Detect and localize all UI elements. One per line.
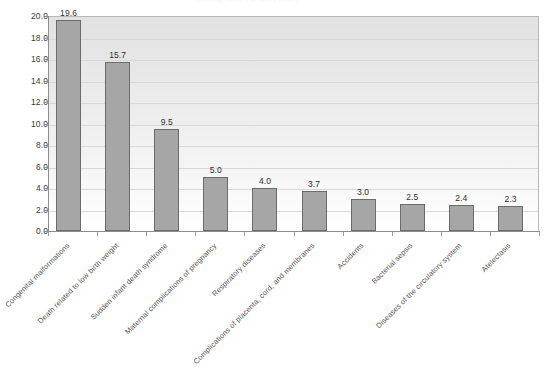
bar-value-label: 4.0 <box>245 176 285 186</box>
category-axis-labels: Congenital malformationsDeath related to… <box>0 231 547 382</box>
bar-group: 2.4 <box>449 16 474 231</box>
bar-group: 15.7 <box>105 16 130 231</box>
y-tick-label: 2.0 <box>4 205 48 215</box>
category-label: Diseases of the circulatory system <box>374 241 463 330</box>
bars-layer: 19.615.79.55.04.03.73.02.52.42.3 <box>48 17 538 231</box>
y-tick-label: 8.0 <box>4 140 48 150</box>
bar <box>449 205 474 231</box>
y-tick-mark <box>44 145 48 146</box>
bar-chart-figure: Leading causes of infant death 19.615.79… <box>0 0 547 382</box>
bar-value-label: 2.4 <box>441 193 481 203</box>
bar-group: 3.7 <box>302 16 327 231</box>
bar-value-label: 19.6 <box>49 8 89 18</box>
bar-group: 2.3 <box>498 16 523 231</box>
category-label: Atelectasis <box>480 241 513 274</box>
y-tick-mark <box>44 16 48 17</box>
y-tick-mark <box>44 188 48 189</box>
bar <box>400 204 425 231</box>
category-label: Maternal complications of pregnancy <box>123 241 218 336</box>
bar-value-label: 2.3 <box>490 194 530 204</box>
bar <box>56 20 81 231</box>
y-tick-mark <box>44 167 48 168</box>
y-tick-label: 18.0 <box>4 33 48 43</box>
category-label: Respiratory diseases <box>210 241 267 298</box>
y-tick-label: 4.0 <box>4 183 48 193</box>
bar-value-label: 3.0 <box>343 187 383 197</box>
bar-group: 9.5 <box>154 16 179 231</box>
chart-title-ghost: Leading causes of infant death <box>196 0 406 4</box>
y-tick-label: 14.0 <box>4 76 48 86</box>
y-tick-mark <box>44 124 48 125</box>
plot-area: 19.615.79.55.04.03.73.02.52.42.3 <box>48 16 539 231</box>
bar-value-label: 9.5 <box>147 117 187 127</box>
bar-group: 4.0 <box>252 16 277 231</box>
category-label: Accidents <box>336 241 366 271</box>
bar-value-label: 15.7 <box>98 50 138 60</box>
y-tick-label: 6.0 <box>4 162 48 172</box>
y-tick-label: 20.0 <box>4 11 48 21</box>
y-tick-mark <box>44 81 48 82</box>
y-tick-label: 12.0 <box>4 97 48 107</box>
bar <box>351 199 376 231</box>
category-label: Death related to low birth weight <box>35 241 120 326</box>
y-tick-mark <box>44 59 48 60</box>
bar <box>252 188 277 231</box>
bar-value-label: 5.0 <box>196 165 236 175</box>
bar-group: 3.0 <box>351 16 376 231</box>
bar <box>154 129 179 231</box>
y-tick-mark <box>44 102 48 103</box>
bar-group: 2.5 <box>400 16 425 231</box>
bar <box>498 206 523 231</box>
y-tick-label: 10.0 <box>4 119 48 129</box>
bar-group: 19.6 <box>56 16 81 231</box>
category-label: Bacterial sepsis <box>370 241 415 286</box>
bar <box>302 191 327 231</box>
bar <box>203 177 228 231</box>
bar-group: 5.0 <box>203 16 228 231</box>
bar-value-label: 3.7 <box>294 179 334 189</box>
y-tick-label: 16.0 <box>4 54 48 64</box>
y-tick-mark <box>44 210 48 211</box>
y-axis-line <box>48 16 49 232</box>
bar <box>105 62 130 231</box>
y-tick-mark <box>44 38 48 39</box>
bar-value-label: 2.5 <box>392 192 432 202</box>
